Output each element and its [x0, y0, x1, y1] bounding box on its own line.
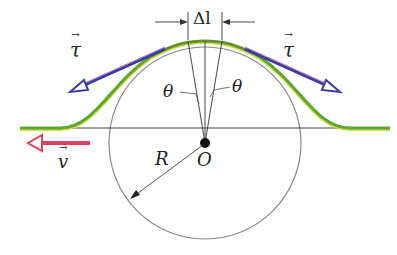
string-element-diagram [0, 0, 397, 255]
theta-leader-left [180, 92, 199, 104]
label-tau-left: τ [70, 40, 81, 60]
label-theta-right: θ [232, 78, 242, 95]
label-tau-right: τ [283, 40, 294, 60]
label-delta-l: Δl [193, 10, 211, 27]
velocity-arrowhead [28, 135, 42, 151]
label-v: v [58, 153, 68, 171]
label-R: R [155, 150, 169, 168]
tension-arrowhead-left [70, 80, 88, 92]
label-theta-left: θ [163, 83, 173, 100]
tension-arrowhead-right [322, 80, 340, 92]
label-O: O [197, 151, 212, 169]
